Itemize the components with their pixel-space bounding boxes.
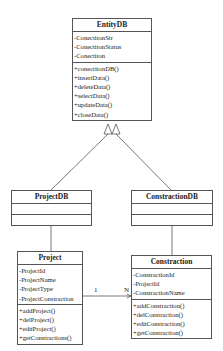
attribute: -ConectitonStatus (74, 42, 150, 51)
method: +delConstraction() (133, 310, 210, 319)
multiplicity-target: N (124, 286, 129, 294)
method: +updateData() (74, 100, 150, 109)
class-name: EntityDB (73, 19, 151, 32)
method: +selectData() (74, 91, 150, 100)
method: +getConstractions() (19, 333, 81, 342)
attribute: -ProjectId (19, 266, 81, 275)
method: +insertData() (74, 73, 150, 82)
attribute: -ProjectType (19, 284, 81, 293)
attributes-section: -ConectitonStr -ConectitonStatus -Conect… (73, 32, 151, 63)
methods-section: +addProject() +delProject() +editProject… (18, 305, 82, 344)
class-name: Project (18, 252, 82, 265)
attribute: -ProjectId (133, 279, 210, 288)
class-projectdb[interactable]: ProjectDB (11, 190, 92, 226)
inheritance-arrow-icon (104, 124, 112, 134)
method: +deleteData() (74, 82, 150, 91)
methods-section (12, 215, 91, 225)
method: +closeData() (74, 110, 150, 119)
method: +delProject() (19, 315, 81, 324)
attribute: -ConstractionName (133, 288, 210, 297)
class-entitydb[interactable]: EntityDB -ConectitonStr -ConectitonStatu… (72, 18, 152, 121)
attribute: -ConectitonStr (74, 33, 150, 42)
method: +conectitonDB() (74, 64, 150, 73)
attributes-section: -ProjectId -ProjectName -ProjectType -Pr… (18, 265, 82, 305)
method: +editProject() (19, 324, 81, 333)
class-project[interactable]: Project -ProjectId -ProjectName -Project… (17, 251, 83, 345)
class-name: Constraction (132, 256, 211, 269)
method: +editConstraction() (133, 319, 210, 328)
class-constraction[interactable]: Constraction -ConstractionId -ProjectId … (131, 255, 212, 339)
attributes-section (12, 204, 91, 215)
attribute: -Conectiton (74, 51, 150, 60)
inheritance-arrow-icon (112, 124, 120, 134)
attribute: -ConstractionId (133, 270, 210, 279)
methods-section: +addConstraction() +delConstraction() +e… (132, 300, 211, 339)
methods-section (132, 215, 212, 225)
class-constractiondb[interactable]: ConstractionDB (131, 190, 213, 226)
attributes-section: -ConstractionId -ProjectId -Constraction… (132, 269, 211, 300)
class-name: ProjectDB (12, 191, 91, 204)
class-name: ConstractionDB (132, 191, 212, 204)
method: +getConstraction() (133, 328, 210, 337)
method: +addProject() (19, 306, 81, 315)
attribute: -ProjectName (19, 275, 81, 284)
methods-section: +conectitonDB() +insertData() +deleteDat… (73, 63, 151, 120)
attribute: -ProjectConstraction (19, 294, 81, 303)
multiplicity-source: 1 (94, 286, 98, 294)
method: +addConstraction() (133, 301, 210, 310)
attributes-section (132, 204, 212, 215)
